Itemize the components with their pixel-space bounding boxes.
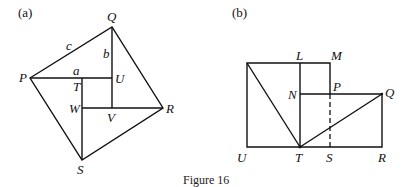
point-q-dot <box>381 93 383 95</box>
diagonal-to-t <box>247 63 300 147</box>
segment-tq <box>300 94 382 147</box>
outer-outline <box>247 63 382 147</box>
point-label-q: Q <box>385 85 395 100</box>
side-label-a: a <box>73 63 80 78</box>
point-label-t: T <box>295 150 303 165</box>
panel-b-tag: (b) <box>232 5 247 20</box>
point-label-l: L <box>295 48 303 63</box>
point-label-q: Q <box>107 9 117 24</box>
point-label-r: R <box>377 150 386 165</box>
panel-a-tag: (a) <box>18 5 32 20</box>
point-label-v: V <box>107 110 117 125</box>
figure-16: (a) P Q R S T U V W a b c (b) L M N P Q … <box>0 0 413 187</box>
point-label-s: S <box>326 150 333 165</box>
point-label-p: P <box>18 70 27 85</box>
panel-a: (a) P Q R S T U V W a b c <box>18 5 174 177</box>
point-t-dot <box>299 146 302 149</box>
point-label-u: U <box>237 150 248 165</box>
side-label-b: b <box>103 46 110 61</box>
point-label-r: R <box>165 101 174 116</box>
panel-b: (b) L M N P Q U T S R <box>232 5 395 165</box>
point-label-s: S <box>77 162 84 177</box>
figure-caption: Figure 16 <box>183 173 229 187</box>
point-label-m: M <box>330 48 343 63</box>
point-label-t: T <box>73 79 81 94</box>
outer-square-pqrs <box>30 27 163 160</box>
side-label-c: c <box>66 38 72 53</box>
point-label-p: P <box>332 79 341 94</box>
point-label-u: U <box>115 71 126 86</box>
point-label-n: N <box>287 87 298 102</box>
point-label-w: W <box>69 101 81 116</box>
